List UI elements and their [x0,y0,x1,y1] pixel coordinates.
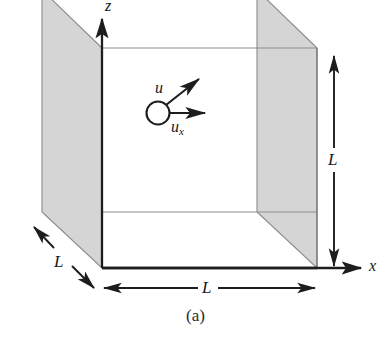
velocity-x-vector-label: ux [171,119,184,137]
z-axis-label: z [105,0,111,14]
x-axis-label: x [369,258,376,274]
velocity-x-vector-label-subscript: x [179,125,184,137]
velocity-vector-label: u [155,80,163,96]
cube-diagram-svg [0,0,391,354]
right-side-panel [257,0,317,268]
depth-dimension-label: L [54,253,63,270]
velocity-x-vector-label-base: u [171,118,179,135]
figure-caption: (a) [0,306,391,326]
width-dimension-label: L [202,279,211,296]
velocity-vector-arrow [166,79,199,105]
left-side-panel [42,0,102,268]
height-dimension-label: L [328,151,337,168]
figure-container: z x u ux L L L (a) [0,0,391,354]
